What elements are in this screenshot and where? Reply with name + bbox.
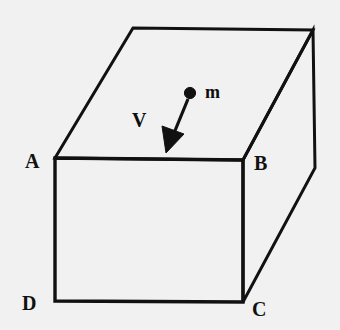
cube-diagram-svg bbox=[0, 0, 340, 330]
front-face-edges bbox=[55, 158, 243, 302]
velocity-arrow-head bbox=[162, 126, 184, 153]
mass-label: m bbox=[205, 83, 220, 101]
vertex-label-c: C bbox=[252, 299, 266, 319]
mass-point-marker bbox=[184, 87, 195, 98]
figure-container: A B C D m V bbox=[0, 0, 340, 330]
vertex-label-b: B bbox=[254, 153, 267, 173]
vertex-label-d: D bbox=[22, 293, 36, 313]
vertex-label-a: A bbox=[25, 151, 39, 171]
velocity-label: V bbox=[132, 110, 146, 130]
